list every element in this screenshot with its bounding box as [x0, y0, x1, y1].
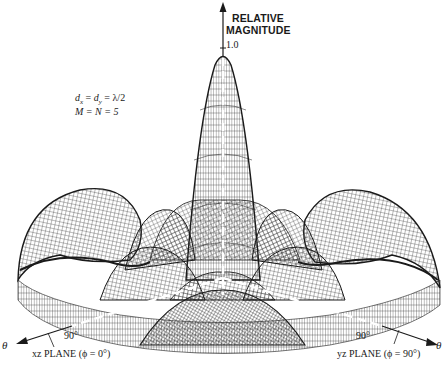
theta-right-label: θ	[436, 340, 441, 351]
spacing-annotation: dx = dy = λ/2	[75, 93, 125, 106]
dx-subscript: x	[80, 98, 83, 106]
theta-left-arrow-icon	[16, 337, 28, 344]
axis-title-line2: MAGNITUDE	[226, 25, 290, 36]
peak-tick-label: 1.0	[226, 40, 239, 50]
elements-annotation: M = N = 5	[75, 107, 119, 117]
dy-subscript: y	[99, 98, 102, 106]
array-factor-figure: RELATIVE MAGNITUDE 1.0 dx = dy = λ/2 M =…	[0, 0, 447, 368]
xz-plane-label: xz PLANE (ϕ = 0°)	[32, 349, 110, 359]
z-axis-arrow-icon	[220, 2, 227, 12]
yz-plane-label: yz PLANE (ϕ = 90°)	[337, 349, 420, 359]
right-90-deg-label: 90°	[356, 331, 370, 341]
axis-title-line1: RELATIVE	[232, 13, 284, 24]
theta-left-label: θ	[2, 340, 7, 351]
left-90-deg-label: 90°	[64, 331, 78, 341]
surface-plot	[0, 0, 447, 368]
spacing-value: = λ/2	[104, 92, 125, 103]
